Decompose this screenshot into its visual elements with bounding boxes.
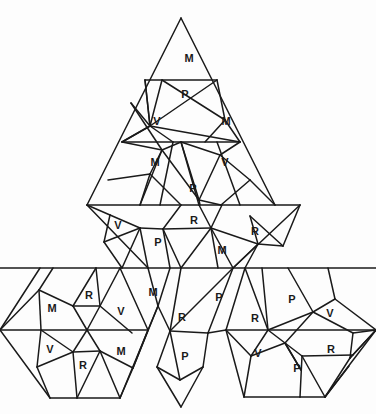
edge-line xyxy=(217,142,240,205)
edge-line xyxy=(163,229,181,268)
edge-line xyxy=(288,268,313,312)
edge-line xyxy=(148,306,158,330)
face-label: P xyxy=(181,350,188,362)
edge-line xyxy=(181,142,220,155)
edge-line xyxy=(203,333,208,367)
face-label: P xyxy=(288,293,295,305)
face-label: R xyxy=(178,311,186,323)
edge-line xyxy=(120,268,148,330)
edge-line xyxy=(325,330,376,397)
polyhedron-net-diagram: MPVMMVPRVRPMRMVMPPVRRVRMPVRP xyxy=(0,0,376,414)
edge-line xyxy=(37,330,41,367)
edge-line xyxy=(87,330,100,351)
edge-line xyxy=(73,306,87,330)
face-label: P xyxy=(181,88,188,100)
face-label: V xyxy=(117,305,125,317)
face-label: P xyxy=(189,182,196,194)
edge-line xyxy=(245,244,258,268)
edge-line xyxy=(100,268,120,306)
edge-line xyxy=(73,351,100,352)
edge-line xyxy=(211,205,222,228)
edge-line xyxy=(108,174,150,180)
face-label: R xyxy=(251,312,259,324)
edge-line xyxy=(268,312,313,330)
edge-line xyxy=(39,268,53,290)
edge-line xyxy=(158,306,170,331)
edge-line xyxy=(104,242,122,268)
edge-line xyxy=(328,268,335,299)
edge-line xyxy=(268,330,285,343)
edge-line xyxy=(37,352,73,367)
face-label: M xyxy=(184,52,193,64)
edge-line xyxy=(302,356,325,397)
edge-line xyxy=(100,306,132,333)
edge-line xyxy=(285,343,302,356)
face-label: M xyxy=(148,286,157,298)
edge-line xyxy=(122,142,162,150)
edge-line xyxy=(199,205,211,228)
edge-line xyxy=(170,331,180,380)
edge-line xyxy=(163,228,211,229)
edge-line xyxy=(181,18,275,205)
face-label: V xyxy=(114,219,122,231)
face-label: M xyxy=(47,302,56,314)
edge-line xyxy=(73,330,87,352)
edge-line xyxy=(87,205,110,215)
face-label: V xyxy=(221,156,229,168)
face-label: M xyxy=(221,115,230,127)
edge-line xyxy=(285,312,313,343)
edge-line xyxy=(157,331,170,367)
edge-line xyxy=(208,330,226,333)
edge-line xyxy=(0,290,39,330)
edge-line xyxy=(181,228,211,268)
edge-line xyxy=(217,80,225,120)
edge-line xyxy=(158,268,170,306)
face-label: V xyxy=(254,347,262,359)
edge-line xyxy=(140,228,163,229)
face-label: R xyxy=(79,359,87,371)
edge-line xyxy=(244,356,251,397)
edge-line xyxy=(258,244,283,246)
face-label: V xyxy=(326,307,334,319)
edge-line xyxy=(140,174,150,205)
edge-line xyxy=(163,205,181,229)
edge-line xyxy=(199,155,220,200)
edge-line xyxy=(73,352,77,398)
edge-line xyxy=(96,268,100,306)
face-label: P xyxy=(293,362,300,374)
edge-line xyxy=(283,205,300,246)
face-label: P xyxy=(154,236,161,248)
edge-line xyxy=(100,351,120,398)
face-label: P xyxy=(215,291,222,303)
edge-line xyxy=(335,299,376,330)
edge-line xyxy=(220,142,240,155)
edge-line xyxy=(87,306,100,330)
edges xyxy=(0,18,376,407)
face-label: M xyxy=(116,345,125,357)
edge-line xyxy=(150,126,240,142)
edge-line xyxy=(250,180,275,205)
edge-line xyxy=(233,244,258,268)
edge-line xyxy=(221,180,250,205)
edge-line xyxy=(170,331,208,333)
face-label: V xyxy=(46,343,54,355)
edge-line xyxy=(181,142,199,205)
face-label: M xyxy=(150,156,159,168)
face-label: V xyxy=(153,115,161,127)
face-label: M xyxy=(217,244,226,256)
face-label: R xyxy=(327,343,335,355)
edge-line xyxy=(302,355,353,356)
edge-line xyxy=(120,368,133,398)
face-label: R xyxy=(251,225,259,237)
face-label: R xyxy=(85,289,93,301)
edge-line xyxy=(145,80,150,126)
net-svg: MPVMMVPRVRPMRMVMPPVRRVRMPVRP xyxy=(0,0,376,414)
edge-line xyxy=(0,268,40,330)
edge-line xyxy=(39,290,41,330)
face-label: R xyxy=(190,214,198,226)
